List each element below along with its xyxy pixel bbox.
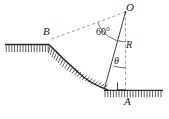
- radius-line-to-B: [49, 12, 126, 40]
- label-point-a: A: [124, 96, 131, 107]
- circular-slip-surface: [48, 45, 108, 91]
- figure-drawing: [0, 0, 169, 119]
- radius-line-variable: [105, 12, 126, 89]
- figure-container: O B A R θ 60°: [0, 0, 169, 119]
- upper-ground-surface: [5, 45, 49, 53]
- angle-arc-theta: [114, 66, 126, 68]
- label-point-b: B: [43, 26, 50, 37]
- label-angle-theta: θ: [114, 56, 119, 66]
- label-point-o: O: [126, 2, 134, 13]
- label-radius-r: R: [126, 40, 132, 50]
- label-angle-60: 60°: [96, 27, 110, 37]
- lower-ground-surface: [104, 90, 163, 97]
- right-angle-marker: [118, 83, 126, 90]
